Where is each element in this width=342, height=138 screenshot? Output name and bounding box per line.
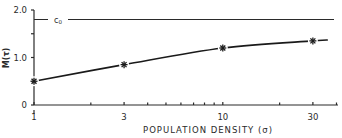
x-tick-label: 3 bbox=[121, 112, 126, 122]
reference-line-c0: c0 bbox=[34, 16, 334, 26]
chart: c0 01.02.0131030 POPULATION DENSITY (σ) … bbox=[0, 0, 342, 138]
x-axis-label: POPULATION DENSITY (σ) bbox=[143, 125, 273, 135]
y-axis-label: M(τ) bbox=[2, 48, 11, 68]
asterisk-marker-icon bbox=[29, 76, 39, 86]
y-tick-label: 0 bbox=[22, 100, 27, 110]
series-line bbox=[34, 40, 328, 81]
ref-line-label: c0 bbox=[54, 16, 62, 26]
x-tick-label: 10 bbox=[217, 112, 228, 122]
axes bbox=[31, 10, 338, 114]
asterisk-marker-icon bbox=[119, 60, 129, 70]
asterisk-marker-icon bbox=[308, 36, 318, 46]
y-tick-label: 1.0 bbox=[13, 53, 27, 63]
x-tick-label: 30 bbox=[307, 112, 318, 122]
data-series-curve bbox=[34, 40, 328, 81]
asterisk-marker-icon bbox=[218, 43, 228, 53]
y-tick-label: 2.0 bbox=[13, 5, 27, 15]
x-tick-label: 1 bbox=[31, 112, 36, 122]
